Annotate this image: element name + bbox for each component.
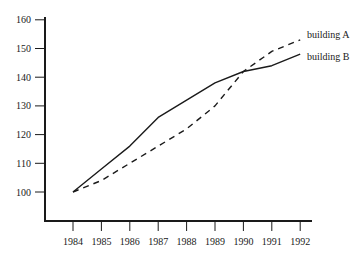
series-layer bbox=[73, 40, 300, 192]
x-axis: 198419851986198719881989199019911992 bbox=[44, 221, 312, 247]
chart-canvas: 100110120130140150160 198419851986198719… bbox=[0, 0, 358, 259]
x-tick-label: 1984 bbox=[63, 236, 83, 247]
x-tick-label: 1987 bbox=[148, 236, 168, 247]
series-line-building-b bbox=[73, 54, 300, 192]
x-tick-label: 1986 bbox=[120, 236, 140, 247]
y-tick-label: 110 bbox=[16, 158, 31, 169]
y-tick-label: 140 bbox=[16, 72, 31, 83]
y-tick-label: 160 bbox=[16, 14, 31, 25]
y-tick-label: 130 bbox=[16, 100, 31, 111]
y-tick-label: 120 bbox=[16, 129, 31, 140]
legend: building Abuilding B bbox=[307, 29, 350, 62]
x-tick-label: 1992 bbox=[290, 236, 310, 247]
legend-label-building-b: building B bbox=[307, 51, 350, 62]
x-tick-label: 1985 bbox=[91, 236, 111, 247]
legend-label-building-a: building A bbox=[307, 29, 350, 40]
y-tick-label: 150 bbox=[16, 43, 31, 54]
series-line-building-a bbox=[73, 40, 300, 192]
x-tick-label: 1991 bbox=[262, 236, 282, 247]
y-tick-label: 100 bbox=[16, 187, 31, 198]
y-axis: 100110120130140150160 bbox=[16, 14, 45, 221]
x-tick-label: 1990 bbox=[233, 236, 253, 247]
x-tick-label: 1988 bbox=[177, 236, 197, 247]
line-chart: 100110120130140150160 198419851986198719… bbox=[0, 0, 358, 259]
x-tick-label: 1989 bbox=[205, 236, 225, 247]
